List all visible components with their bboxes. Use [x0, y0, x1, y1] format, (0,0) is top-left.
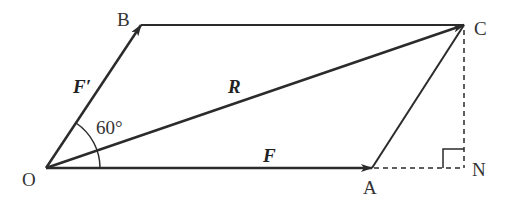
vector-label-f: F	[262, 145, 276, 166]
angle-label: 60°	[96, 117, 123, 138]
vector-label-f-prime: F′	[72, 76, 91, 97]
point-label-o: O	[22, 169, 36, 190]
point-label-a: A	[363, 177, 377, 198]
parallelogram-diagram: O A B C N F′ R F 60°	[0, 0, 510, 209]
vector-f-prime	[46, 25, 141, 168]
vector-r	[46, 25, 464, 168]
point-label-c: C	[474, 18, 487, 39]
vector-label-r: R	[227, 76, 241, 97]
point-label-b: B	[117, 9, 130, 30]
right-angle-marker-icon	[443, 149, 464, 168]
segment-ac	[372, 25, 464, 168]
point-label-n: N	[472, 159, 486, 180]
